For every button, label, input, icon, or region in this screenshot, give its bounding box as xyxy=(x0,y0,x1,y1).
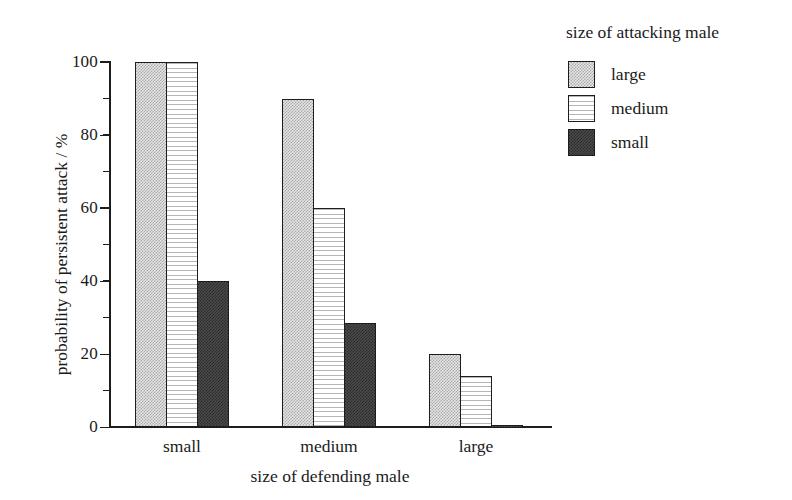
y-tick-minor-90 xyxy=(103,98,109,99)
y-tick-label-80: 80 xyxy=(81,126,98,143)
bar-chart-figure: 100 80 60 40 20 0 probability of persist… xyxy=(0,0,792,500)
y-tick-major-80 xyxy=(100,135,109,136)
x-axis-title: size of defending male xyxy=(110,466,550,487)
legend-item-large: large xyxy=(566,57,776,91)
bar-medium-large xyxy=(282,99,314,428)
y-tick-label-40: 40 xyxy=(81,272,98,289)
legend-swatch-large-icon xyxy=(568,61,595,88)
y-tick-major-40 xyxy=(100,281,109,282)
legend-title: size of attacking male xyxy=(566,22,776,43)
y-tick-minor-30 xyxy=(103,317,109,318)
y-tick-major-60 xyxy=(100,208,109,209)
x-tick-label-small: small xyxy=(132,436,232,457)
y-axis-title: probability of persistent attack / % xyxy=(51,90,72,420)
bar-large-medium xyxy=(460,376,492,427)
y-tick-label-0: 0 xyxy=(89,418,98,435)
bar-medium-medium xyxy=(313,208,345,427)
legend: size of attacking male large medium smal… xyxy=(566,22,776,159)
x-tick-label-large: large xyxy=(426,436,526,457)
y-tick-label-60: 60 xyxy=(81,199,98,216)
legend-swatch-medium-icon xyxy=(568,95,595,122)
y-tick-major-0 xyxy=(100,427,109,428)
y-axis-line xyxy=(109,61,111,428)
y-tick-minor-70 xyxy=(103,171,109,172)
y-tick-major-20 xyxy=(100,354,109,355)
bar-large-large xyxy=(429,354,461,427)
legend-label-small: small xyxy=(611,132,649,153)
legend-item-medium: medium xyxy=(566,91,776,125)
bar-small-large xyxy=(135,62,167,427)
y-tick-major-100 xyxy=(100,62,109,63)
legend-label-large: large xyxy=(611,64,646,85)
y-tick-label-100: 100 xyxy=(72,53,98,70)
legend-item-small: small xyxy=(566,125,776,159)
y-tick-label-20: 20 xyxy=(81,345,98,362)
legend-label-medium: medium xyxy=(611,98,668,119)
bar-large-small xyxy=(491,425,523,428)
y-tick-minor-10 xyxy=(103,390,109,391)
bar-small-medium xyxy=(166,62,198,427)
legend-swatch-small-icon xyxy=(568,129,595,156)
x-tick-label-medium: medium xyxy=(279,436,379,457)
bar-medium-small xyxy=(344,323,376,427)
y-tick-minor-50 xyxy=(103,244,109,245)
bar-small-small xyxy=(197,281,229,427)
